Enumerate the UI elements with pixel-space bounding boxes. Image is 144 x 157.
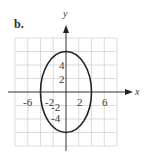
y-tick-label: -4 — [51, 113, 60, 124]
x-tick-label: 2 — [77, 97, 83, 108]
y-axis-label: y — [63, 8, 67, 19]
x-tick-label: -6 — [23, 97, 32, 108]
x-axis-arrow-icon — [125, 89, 133, 95]
y-tick-label: 4 — [59, 60, 65, 71]
y-axis-arrow-icon — [63, 25, 69, 33]
x-tick-label: 6 — [102, 97, 108, 108]
x-axis-label: x — [135, 86, 139, 97]
panel-label: b. — [14, 17, 24, 32]
y-tick-label: 2 — [59, 74, 65, 85]
